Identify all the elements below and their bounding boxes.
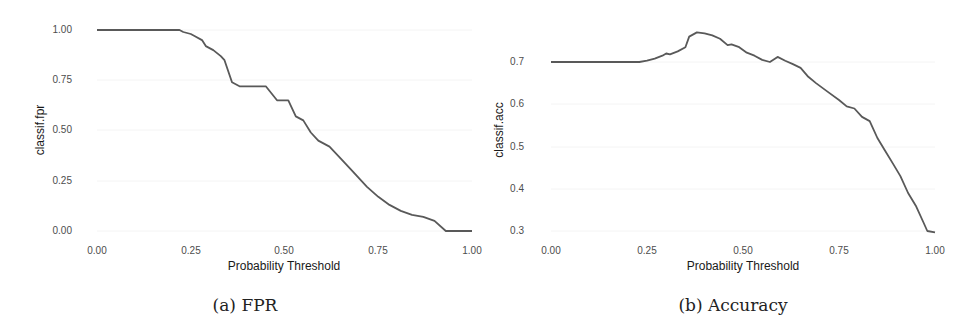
x-axis-title: Probability Threshold xyxy=(687,259,800,273)
x-tick: 0.75 xyxy=(368,245,388,256)
fpr-y-ticks: 0.00 0.25 0.50 0.75 1.00 xyxy=(53,24,73,236)
x-tick: 1.00 xyxy=(925,245,945,256)
accuracy-y-ticks: 0.3 0.4 0.5 0.6 0.7 xyxy=(510,56,524,236)
y-tick: 0.00 xyxy=(53,225,73,236)
y-axis-title: classif.fpr xyxy=(33,105,47,156)
x-tick: 0.00 xyxy=(541,245,561,256)
fpr-chart: 0.00 0.25 0.50 0.75 1.00 0.00 0.25 0.50 … xyxy=(0,0,490,295)
x-tick: 0.25 xyxy=(181,245,201,256)
accuracy-x-ticks: 0.00 0.25 0.50 0.75 1.00 xyxy=(541,245,945,256)
y-tick: 0.6 xyxy=(510,98,524,109)
accuracy-chart-panel: 0.3 0.4 0.5 0.6 0.7 0.00 0.25 0.50 0.75 … xyxy=(490,0,976,335)
figure-caption: (a) FPR xyxy=(0,295,490,315)
figure-caption: (b) Accuracy xyxy=(490,295,976,315)
fpr-plot-area xyxy=(97,30,472,231)
x-tick: 0.25 xyxy=(637,245,657,256)
x-tick: 0.75 xyxy=(829,245,849,256)
y-tick: 0.25 xyxy=(53,175,73,186)
accuracy-chart: 0.3 0.4 0.5 0.6 0.7 0.00 0.25 0.50 0.75 … xyxy=(490,0,976,295)
x-tick: 0.00 xyxy=(87,245,107,256)
y-tick: 0.3 xyxy=(510,225,524,236)
accuracy-plot-area xyxy=(551,32,935,232)
y-tick: 0.75 xyxy=(53,74,73,85)
fpr-x-ticks: 0.00 0.25 0.50 0.75 1.00 xyxy=(87,245,482,256)
x-tick: 1.00 xyxy=(462,245,482,256)
x-axis-title: Probability Threshold xyxy=(228,259,341,273)
y-tick: 1.00 xyxy=(53,24,73,35)
y-axis-title: classif.acc xyxy=(492,102,506,157)
x-tick: 0.50 xyxy=(733,245,753,256)
fpr-chart-panel: 0.00 0.25 0.50 0.75 1.00 0.00 0.25 0.50 … xyxy=(0,0,490,335)
y-tick: 0.7 xyxy=(510,56,524,67)
y-tick: 0.50 xyxy=(53,124,73,135)
y-tick: 0.4 xyxy=(510,183,524,194)
x-tick: 0.50 xyxy=(274,245,294,256)
y-tick: 0.5 xyxy=(510,141,524,152)
